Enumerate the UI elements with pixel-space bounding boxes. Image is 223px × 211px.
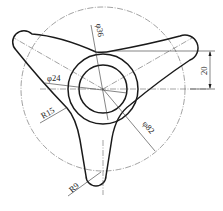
label-phi82: φ82 <box>140 119 156 136</box>
leader-phi24 <box>45 83 127 93</box>
technical-drawing: φ36 φ24 φ82 R15 R9 20 <box>0 0 223 211</box>
centerline-upper-right <box>103 38 192 89</box>
leader-phi36 <box>91 25 108 120</box>
label-phi36: φ36 <box>94 23 106 38</box>
label-phi24: φ24 <box>47 73 61 83</box>
arrow-top <box>209 51 212 56</box>
arrow-bottom <box>209 84 212 89</box>
label-20: 20 <box>199 67 209 76</box>
label-r15: R15 <box>39 105 56 121</box>
label-r9: R9 <box>67 180 81 194</box>
